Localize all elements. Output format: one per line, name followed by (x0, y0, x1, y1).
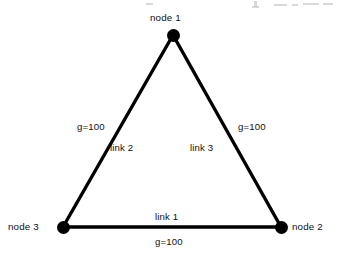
network-diagram-canvas: node 1 node 2 node 3 link 1 g=100 g=100 … (0, 0, 341, 269)
node-label-node-2: node 2 (292, 221, 323, 232)
node-label-node-3: node 3 (8, 221, 39, 232)
link-label-link-1: link 1 (155, 211, 178, 222)
link-weight-link-2: g=100 (77, 121, 105, 132)
node-dot-node-1[interactable] (167, 29, 180, 42)
link-weight-link-1: g=100 (155, 236, 183, 247)
link-label-link-2: link 2 (110, 142, 133, 153)
link-weight-link-3: g=100 (238, 121, 266, 132)
node-label-node-1: node 1 (150, 12, 181, 23)
node-dot-node-2[interactable] (275, 221, 288, 234)
node-dot-node-3[interactable] (57, 221, 70, 234)
link-label-link-3: link 3 (190, 142, 213, 153)
